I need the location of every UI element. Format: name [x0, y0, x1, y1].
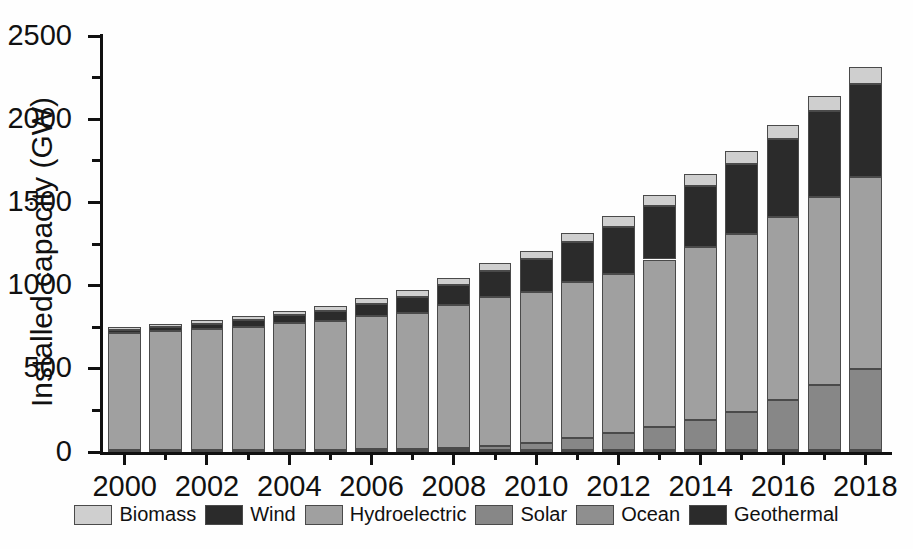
bar-2011[interactable]: [561, 36, 594, 452]
bar-segment-wind[interactable]: [273, 315, 306, 323]
bar-segment-wind[interactable]: [520, 259, 553, 292]
bar-segment-wind[interactable]: [437, 285, 470, 305]
bar-segment-hydroelectric[interactable]: [149, 331, 182, 450]
bar-2009[interactable]: [479, 36, 512, 452]
bar-2006[interactable]: [355, 36, 388, 452]
bar-segment-hydroelectric[interactable]: [232, 327, 265, 450]
bar-segment-wind[interactable]: [191, 324, 224, 329]
bar-2002[interactable]: [191, 36, 224, 452]
legend-item-wind[interactable]: Wind: [205, 503, 296, 526]
bar-segment-biomass[interactable]: [232, 316, 265, 320]
bar-2008[interactable]: [437, 36, 470, 452]
bar-segment-wind[interactable]: [355, 304, 388, 316]
bar-segment-biomass[interactable]: [191, 320, 224, 324]
bar-2005[interactable]: [314, 36, 347, 452]
bar-segment-geothermal[interactable]: [602, 450, 635, 452]
bar-segment-geothermal[interactable]: [684, 450, 717, 452]
bar-segment-hydroelectric[interactable]: [396, 313, 429, 449]
bar-segment-solar[interactable]: [602, 433, 635, 450]
bar-2017[interactable]: [808, 36, 841, 452]
bar-segment-biomass[interactable]: [849, 67, 882, 83]
bar-segment-solar[interactable]: [479, 446, 512, 450]
bar-2003[interactable]: [232, 36, 265, 452]
bar-segment-biomass[interactable]: [725, 151, 758, 164]
bar-segment-biomass[interactable]: [355, 298, 388, 304]
bar-2015[interactable]: [725, 36, 758, 452]
bar-2012[interactable]: [602, 36, 635, 452]
bar-segment-biomass[interactable]: [314, 306, 347, 311]
bar-segment-wind[interactable]: [808, 111, 841, 197]
bar-segment-hydroelectric[interactable]: [808, 197, 841, 385]
bar-segment-hydroelectric[interactable]: [314, 321, 347, 450]
bar-segment-solar[interactable]: [725, 412, 758, 450]
bar-2014[interactable]: [684, 36, 717, 452]
bar-segment-wind[interactable]: [314, 311, 347, 321]
bar-segment-wind[interactable]: [396, 297, 429, 313]
legend-item-hydroelectric[interactable]: Hydroelectric: [305, 503, 467, 526]
bar-segment-solar[interactable]: [437, 448, 470, 450]
bar-segment-wind[interactable]: [561, 242, 594, 282]
bar-segment-solar[interactable]: [643, 427, 676, 450]
bar-segment-geothermal[interactable]: [767, 450, 800, 452]
bar-segment-hydroelectric[interactable]: [561, 282, 594, 438]
bar-segment-geothermal[interactable]: [808, 450, 841, 452]
bar-2004[interactable]: [273, 36, 306, 452]
bar-segment-geothermal[interactable]: [561, 450, 594, 452]
bar-segment-wind[interactable]: [232, 320, 265, 327]
bar-segment-wind[interactable]: [479, 271, 512, 297]
bar-segment-hydroelectric[interactable]: [437, 305, 470, 447]
bar-segment-hydroelectric[interactable]: [273, 323, 306, 449]
bar-segment-biomass[interactable]: [767, 125, 800, 139]
bar-segment-hydroelectric[interactable]: [108, 333, 141, 450]
bar-segment-geothermal[interactable]: [643, 450, 676, 452]
bar-segment-wind[interactable]: [849, 84, 882, 178]
bar-segment-hydroelectric[interactable]: [684, 247, 717, 420]
bar-segment-solar[interactable]: [849, 369, 882, 450]
bar-segment-biomass[interactable]: [273, 311, 306, 316]
legend-item-geothermal[interactable]: Geothermal: [689, 503, 839, 526]
bar-2016[interactable]: [767, 36, 800, 452]
bar-segment-biomass[interactable]: [808, 96, 841, 111]
bar-segment-hydroelectric[interactable]: [725, 234, 758, 412]
bar-segment-hydroelectric[interactable]: [767, 217, 800, 400]
bar-segment-biomass[interactable]: [437, 278, 470, 285]
bar-segment-hydroelectric[interactable]: [355, 316, 388, 449]
bar-segment-wind[interactable]: [643, 206, 676, 259]
bar-segment-biomass[interactable]: [643, 195, 676, 206]
bar-segment-geothermal[interactable]: [725, 450, 758, 452]
bar-segment-hydroelectric[interactable]: [520, 292, 553, 443]
bar-segment-wind[interactable]: [602, 227, 635, 274]
bar-segment-solar[interactable]: [767, 400, 800, 450]
bar-segment-hydroelectric[interactable]: [643, 260, 676, 427]
bar-segment-biomass[interactable]: [396, 290, 429, 296]
bar-2013[interactable]: [643, 36, 676, 452]
legend-item-solar[interactable]: Solar: [475, 503, 567, 526]
bar-segment-biomass[interactable]: [520, 251, 553, 259]
bar-segment-wind[interactable]: [684, 186, 717, 248]
bar-segment-biomass[interactable]: [108, 327, 141, 330]
bar-segment-wind[interactable]: [108, 330, 141, 333]
bar-2018[interactable]: [849, 36, 882, 452]
bar-segment-wind[interactable]: [725, 164, 758, 234]
bar-2010[interactable]: [520, 36, 553, 452]
bar-segment-biomass[interactable]: [479, 263, 512, 270]
bar-2001[interactable]: [149, 36, 182, 452]
bar-segment-solar[interactable]: [520, 443, 553, 450]
bar-segment-hydroelectric[interactable]: [849, 177, 882, 368]
bar-2000[interactable]: [108, 36, 141, 452]
bar-segment-solar[interactable]: [684, 420, 717, 449]
legend-item-ocean[interactable]: Ocean: [576, 503, 680, 526]
bar-segment-solar[interactable]: [561, 438, 594, 450]
bar-segment-geothermal[interactable]: [849, 450, 882, 452]
legend-item-biomass[interactable]: Biomass: [74, 503, 196, 526]
bar-segment-hydroelectric[interactable]: [191, 329, 224, 450]
bar-segment-hydroelectric[interactable]: [479, 297, 512, 446]
bar-segment-hydroelectric[interactable]: [602, 274, 635, 433]
bar-segment-wind[interactable]: [149, 327, 182, 331]
bar-segment-geothermal[interactable]: [520, 450, 553, 452]
bar-segment-biomass[interactable]: [602, 216, 635, 226]
bar-segment-biomass[interactable]: [684, 174, 717, 186]
bar-2007[interactable]: [396, 36, 429, 452]
bar-segment-biomass[interactable]: [561, 233, 594, 242]
bar-segment-solar[interactable]: [808, 385, 841, 450]
